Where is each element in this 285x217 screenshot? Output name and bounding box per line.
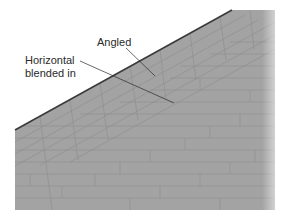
wall-illustration xyxy=(0,0,285,217)
siding-courses-diagram: Angled Horizontal blended in xyxy=(0,0,285,217)
wall-surface xyxy=(15,10,275,210)
angled-label: Angled xyxy=(97,36,131,49)
horizontal-label-line2: blended in xyxy=(25,67,76,80)
right-fade xyxy=(262,10,276,211)
horizontal-label-line1: Horizontal xyxy=(25,54,76,67)
horizontal-blended-label: Horizontal blended in xyxy=(25,54,76,80)
